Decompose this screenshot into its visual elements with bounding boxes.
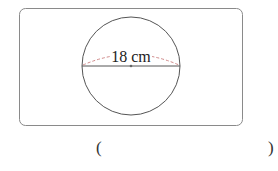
diameter-label: 18 cm xyxy=(111,48,151,65)
circle-figure: 18 cm xyxy=(0,0,278,171)
answer-close-paren: ) xyxy=(268,138,274,158)
answer-open-paren: ( xyxy=(96,138,102,158)
center-point xyxy=(130,65,133,68)
